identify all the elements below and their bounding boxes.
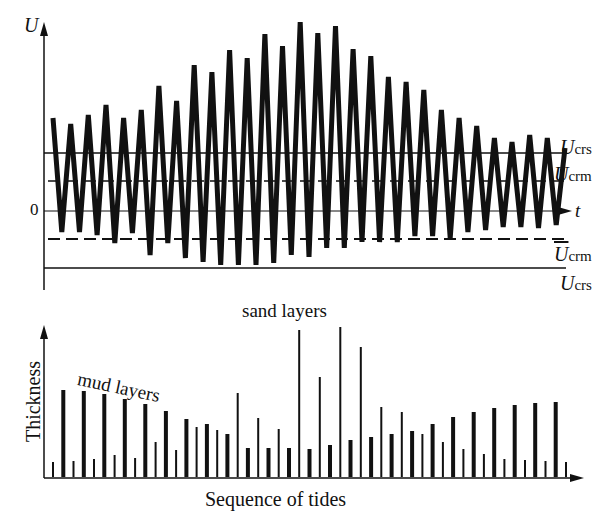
sand-layer-bar <box>524 460 526 477</box>
sand-layer-bar <box>298 330 300 477</box>
sand-layer-bar <box>380 407 382 477</box>
sand-layer-bar <box>442 442 444 477</box>
sand-layer-bar <box>401 412 403 477</box>
zero-label: 0 <box>30 200 39 220</box>
mud-layer-bar <box>349 440 353 477</box>
mud-layer-bar <box>267 448 271 477</box>
top-panel <box>40 22 572 290</box>
sand-layer-bar <box>114 455 116 477</box>
mud-layer-bar <box>390 434 394 477</box>
mud-layer-bar <box>533 403 537 477</box>
mud-layer-bar <box>410 431 414 477</box>
sand-layer-bar <box>339 327 341 477</box>
tidal-diagram <box>0 0 608 516</box>
velocity-curve <box>53 22 565 265</box>
mud-layer-bar <box>61 390 65 477</box>
sand-layer-bar <box>237 393 239 477</box>
sand-layer-bar <box>319 377 321 477</box>
layer-bars <box>52 327 567 477</box>
sand-layer-bar <box>503 459 505 477</box>
mud-layer-bar <box>369 437 373 477</box>
mud-layer-bar <box>554 402 558 477</box>
sequence-axis-arrow-icon <box>570 474 584 482</box>
mud-layer-bar <box>308 449 312 477</box>
mud-layer-bar <box>82 391 86 477</box>
mud-layer-bar <box>451 417 455 477</box>
sand-layer-bar <box>93 459 95 477</box>
sand-layer-bar <box>155 442 157 477</box>
sand-layer-bar <box>175 450 177 477</box>
sand-layer-bar <box>73 461 75 477</box>
mud-layer-bar <box>431 424 435 477</box>
t-axis-label: t <box>575 200 580 222</box>
sand-layer-bar <box>421 434 423 477</box>
u-crm-lower-label: Ucrm <box>554 243 592 266</box>
sand-layer-bar <box>545 461 547 477</box>
sand-layer-bar <box>196 427 198 477</box>
mud-layer-bar <box>123 399 127 477</box>
mud-layer-bar <box>205 424 209 477</box>
sand-layer-bar <box>483 454 485 477</box>
u-crm-upper-label: Ucrm <box>554 163 592 186</box>
mud-layer-bar <box>287 448 291 477</box>
mud-layer-bar <box>143 404 147 477</box>
sand-layer-bar <box>462 449 464 477</box>
u-axis-arrow-icon <box>40 22 48 36</box>
mud-layer-bar <box>492 408 496 477</box>
bottom-panel <box>40 325 584 482</box>
sand-layer-bar <box>216 430 218 477</box>
sand-layer-bar <box>565 462 567 477</box>
sand-layer-bar <box>52 462 54 477</box>
mud-layer-bar <box>246 448 250 477</box>
sand-layer-bar <box>257 418 259 477</box>
sand-layer-bar <box>360 347 362 477</box>
u-crs-upper-label: Ucrs <box>560 136 592 159</box>
mud-layer-bar <box>328 445 332 477</box>
sand-layer-bar <box>134 458 136 477</box>
mud-layer-bar <box>513 405 517 477</box>
sequence-axis-label: Sequence of tides <box>205 488 346 511</box>
u-crs-lower-label: Ucrs <box>560 272 592 295</box>
u-axis-label: U <box>24 14 38 37</box>
sand-layer-bar <box>278 429 280 477</box>
sand-layers-annotation: sand layers <box>242 300 327 322</box>
mud-layer-bar <box>225 434 229 477</box>
mud-layer-bar <box>164 411 168 477</box>
thickness-axis-arrow-icon <box>40 325 48 339</box>
mud-layer-bar <box>184 419 188 477</box>
mud-layer-bar <box>472 412 476 477</box>
mud-layer-bar <box>102 394 106 477</box>
thickness-axis-label: Thickness <box>22 357 45 447</box>
